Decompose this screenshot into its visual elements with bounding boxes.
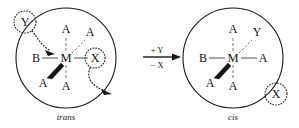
reagent-removed-label: − X (150, 60, 163, 70)
ligand-left-trans: B (32, 51, 40, 65)
leaving-motion-arrowhead-x (101, 89, 112, 95)
center-atom-label-cis: M (227, 51, 238, 65)
bond-m-a-lower-left-wedge-cis (214, 63, 231, 79)
ligand-upper-right-y-cis: Y (253, 25, 262, 39)
isomer-label-cis: cis (228, 112, 238, 122)
incoming-group-label-y: Y (21, 15, 30, 29)
ligand-left-cis: B (199, 51, 207, 65)
ligand-upper-right-trans: A (86, 25, 95, 39)
cis-complex-group: M A A B A Y A X cis (183, 8, 287, 122)
bond-m-y-upper-right-cis (239, 40, 252, 53)
incoming-motion-path-y (32, 31, 49, 50)
center-atom-label-trans: M (60, 51, 71, 65)
isomer-label-trans: trans (57, 112, 76, 122)
bond-m-a-upper-right-trans (72, 40, 85, 53)
reaction-scheme-figure: M A A B X A A Y trans + Y − X (0, 0, 299, 128)
ligand-right-leaving-trans: X (91, 51, 100, 65)
ligand-lower-left-cis: A (206, 76, 215, 90)
ligand-top-cis: A (229, 22, 238, 36)
leaving-motion-path-x (89, 68, 105, 91)
ligand-bottom-cis: A (229, 79, 238, 93)
reagent-added-label: + Y (151, 45, 164, 55)
expelled-group-label-x: X (272, 87, 281, 101)
reaction-arrowhead (172, 54, 181, 61)
ligand-top-trans: A (62, 22, 71, 36)
ligand-lower-left-trans: A (39, 76, 48, 90)
incoming-motion-arrowhead-y (45, 50, 55, 56)
trans-complex-group: M A A B X A A Y trans (14, 8, 116, 122)
reaction-arrow-group: + Y − X (143, 45, 181, 70)
bond-m-a-lower-left-wedge-trans (47, 63, 64, 79)
ligand-bottom-trans: A (62, 79, 71, 93)
reaction-scheme-svg: M A A B X A A Y trans + Y − X (0, 0, 299, 128)
ligand-right-cis: A (259, 51, 268, 65)
